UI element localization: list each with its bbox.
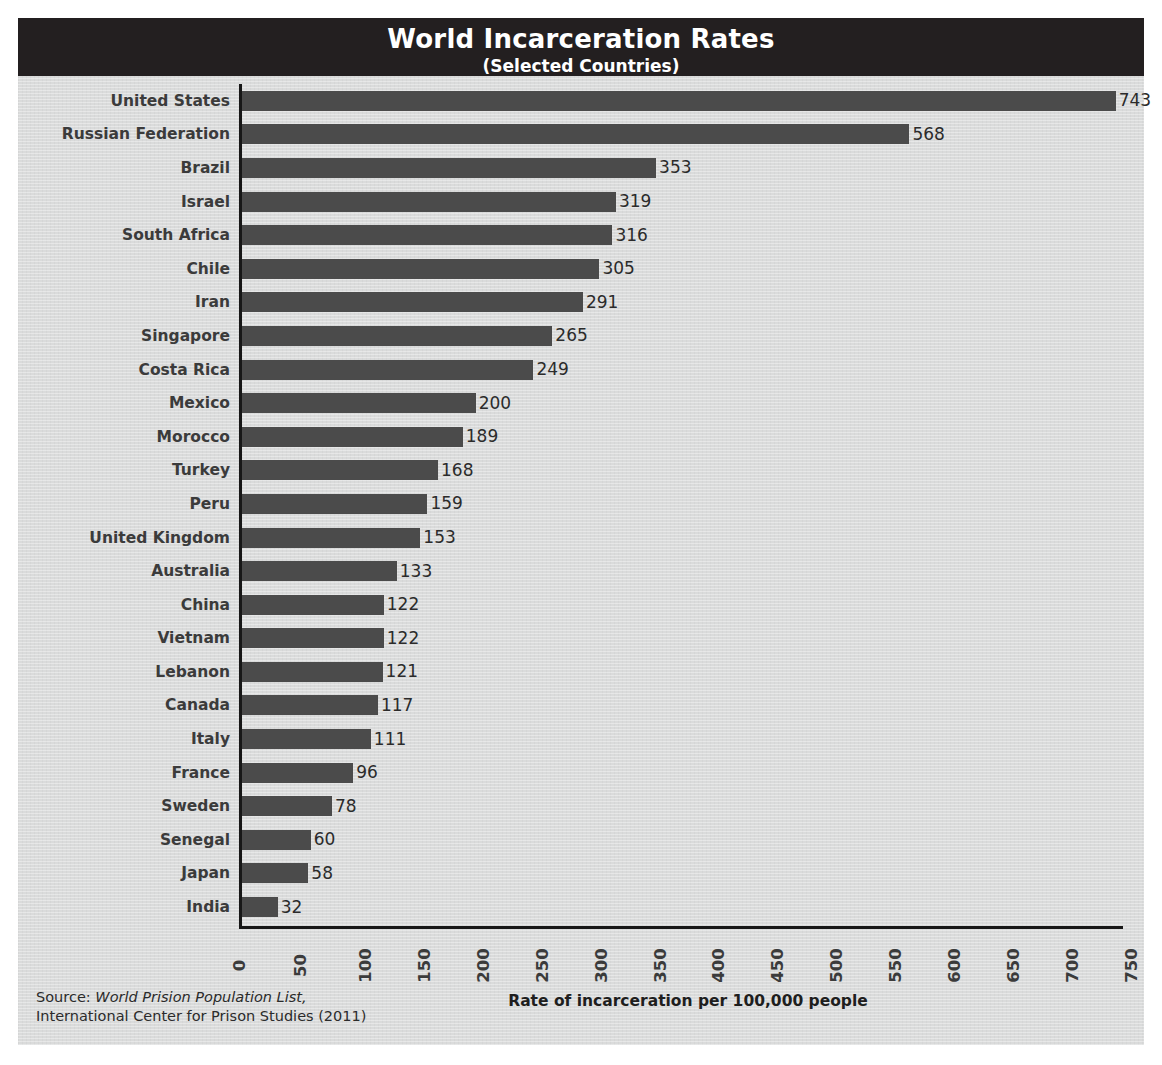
bar-row: Lebanon121 — [18, 655, 1144, 689]
bar-value-label: 32 — [281, 899, 303, 916]
bar-row: Chile305 — [18, 252, 1144, 286]
x-axis-title: Rate of incarceration per 100,000 people — [418, 992, 958, 1010]
bar-value-label: 189 — [466, 428, 498, 445]
bar — [240, 393, 476, 413]
bar-row: Iran291 — [18, 286, 1144, 320]
bar-value-label: 265 — [555, 327, 587, 344]
bar-row: Costa Rica249 — [18, 353, 1144, 387]
category-label: Morocco — [18, 428, 230, 446]
bar — [240, 292, 583, 312]
bar — [240, 561, 397, 581]
bar-value-label: 200 — [479, 395, 511, 412]
bar — [240, 763, 353, 783]
bar-row: Senegal60 — [18, 823, 1144, 857]
bar-row: Morocco189 — [18, 420, 1144, 454]
bar-track: 111 — [240, 722, 1144, 756]
bar-value-label: 117 — [381, 697, 413, 714]
source-title: World Prision Population List, — [95, 989, 306, 1005]
bar — [240, 158, 656, 178]
category-label: Peru — [18, 495, 230, 513]
bar-row: Russian Federation568 — [18, 118, 1144, 152]
bar-track: 353 — [240, 151, 1144, 185]
bar-track: 159 — [240, 487, 1144, 521]
bar-track: 153 — [240, 521, 1144, 555]
bar-track: 96 — [240, 756, 1144, 790]
category-label: France — [18, 764, 230, 782]
bar-track: 305 — [240, 252, 1144, 286]
bar-track: 291 — [240, 286, 1144, 320]
category-label: Russian Federation — [18, 125, 230, 143]
bar-row: Japan58 — [18, 857, 1144, 891]
bar-row: India32 — [18, 890, 1144, 924]
plot-area: United States743Russian Federation568Bra… — [18, 84, 1144, 944]
category-label: Singapore — [18, 327, 230, 345]
bar-value-label: 168 — [441, 462, 473, 479]
bar-row: Australia133 — [18, 554, 1144, 588]
bar — [240, 595, 384, 615]
bar-track: 743 — [240, 84, 1144, 118]
x-axis-line — [239, 926, 1123, 929]
category-label: Canada — [18, 696, 230, 714]
bar-value-label: 159 — [430, 495, 462, 512]
category-label: Chile — [18, 260, 230, 278]
bar-value-label: 111 — [374, 731, 406, 748]
bar — [240, 528, 420, 548]
bar-row: Turkey168 — [18, 454, 1144, 488]
source-org: International Center for Prison Studies … — [36, 1008, 366, 1024]
bar-row: China122 — [18, 588, 1144, 622]
bar-value-label: 249 — [536, 361, 568, 378]
bar — [240, 830, 311, 850]
bar — [240, 863, 308, 883]
y-axis-line — [239, 84, 242, 926]
bar-track: 58 — [240, 857, 1144, 891]
bar-value-label: 121 — [386, 663, 418, 680]
bar — [240, 427, 463, 447]
bar — [240, 225, 612, 245]
bar — [240, 192, 616, 212]
bar-row: Vietnam122 — [18, 622, 1144, 656]
bar — [240, 360, 533, 380]
category-label: Australia — [18, 562, 230, 580]
category-label: United Kingdom — [18, 529, 230, 547]
bar-track: 265 — [240, 319, 1144, 353]
bar-row: Brazil353 — [18, 151, 1144, 185]
category-label: Costa Rica — [18, 361, 230, 379]
bar-track: 121 — [240, 655, 1144, 689]
bar-track: 168 — [240, 454, 1144, 488]
bar-track: 189 — [240, 420, 1144, 454]
bar-value-label: 319 — [619, 193, 651, 210]
category-label: Brazil — [18, 159, 230, 177]
chart-title-banner: World Incarceration Rates (Selected Coun… — [18, 18, 1144, 76]
category-label: Sweden — [18, 797, 230, 815]
bar-value-label: 305 — [602, 260, 634, 277]
bar-value-label: 133 — [400, 563, 432, 580]
bar-value-label: 122 — [387, 630, 419, 647]
category-label: India — [18, 898, 230, 916]
category-label: South Africa — [18, 226, 230, 244]
bar-row: Israel319 — [18, 185, 1144, 219]
category-label: Lebanon — [18, 663, 230, 681]
bar — [240, 91, 1116, 111]
source-prefix: Source: — [36, 989, 95, 1005]
bar-track: 200 — [240, 386, 1144, 420]
bar — [240, 460, 438, 480]
category-label: Vietnam — [18, 629, 230, 647]
bar — [240, 662, 383, 682]
category-label: Japan — [18, 864, 230, 882]
bar-track: 122 — [240, 622, 1144, 656]
bar-row: South Africa316 — [18, 218, 1144, 252]
bar-value-label: 568 — [912, 126, 944, 143]
bar-value-label: 743 — [1119, 92, 1151, 109]
bar — [240, 124, 909, 144]
category-label: Senegal — [18, 831, 230, 849]
category-label: Mexico — [18, 394, 230, 412]
bar — [240, 494, 427, 514]
bar — [240, 897, 278, 917]
bar — [240, 628, 384, 648]
bar-row: United States743 — [18, 84, 1144, 118]
bar-track: 568 — [240, 118, 1144, 152]
bar-value-label: 122 — [387, 596, 419, 613]
bar-value-label: 353 — [659, 159, 691, 176]
category-label: Italy — [18, 730, 230, 748]
bar — [240, 729, 371, 749]
